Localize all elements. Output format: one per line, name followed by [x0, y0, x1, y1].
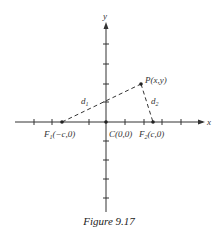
- y-axis: y: [102, 11, 109, 212]
- point-p: [139, 82, 143, 86]
- d1-segment: [62, 84, 141, 122]
- x-axis-label: x: [206, 117, 211, 127]
- point-p-label: P(x,y): [144, 75, 167, 85]
- f2-label: F2(c,0): [138, 129, 164, 140]
- origin-label: C(0,0): [109, 129, 132, 139]
- ellipse-foci-diagram: x y P(x,y) d1 d2 F1(−c,0) C(0,0) F2(c,0)…: [0, 0, 219, 230]
- point-f2: [151, 120, 155, 124]
- point-origin: [104, 120, 108, 124]
- figure-caption: Figure 9.17: [82, 215, 135, 227]
- y-axis-arrow-icon: [104, 22, 109, 29]
- x-axis-arrow-icon: [198, 120, 205, 125]
- y-axis-label: y: [102, 11, 107, 21]
- f1-label: F1(−c,0): [43, 129, 75, 140]
- d1-label: d1: [81, 96, 89, 107]
- d2-label: d2: [151, 96, 159, 107]
- point-f1: [60, 120, 64, 124]
- x-axis: x: [15, 117, 211, 127]
